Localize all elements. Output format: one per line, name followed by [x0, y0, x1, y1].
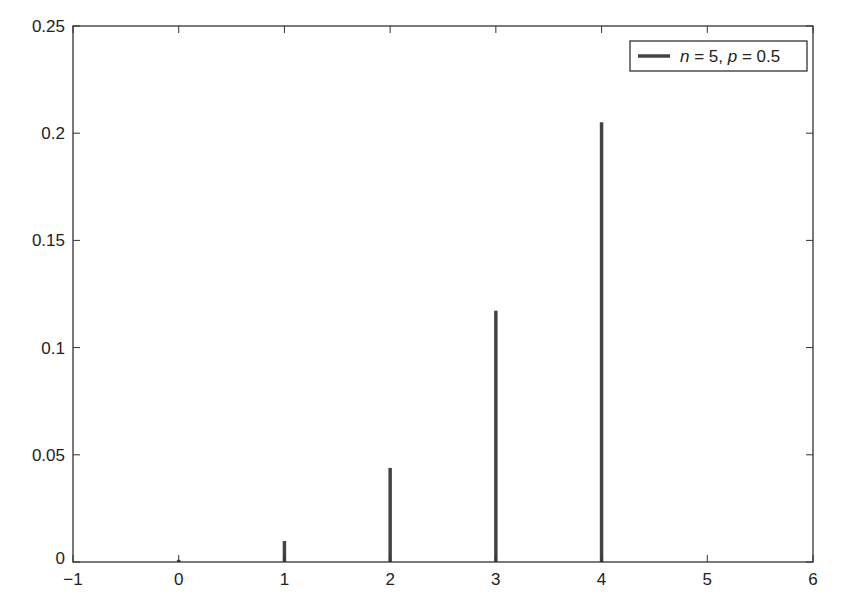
- x-tick-label: 2: [385, 570, 394, 589]
- y-tick-label: 0.2: [41, 124, 65, 143]
- x-tick-label: 0: [174, 570, 183, 589]
- x-tick-label: 1: [280, 570, 289, 589]
- y-tick-label: 0.15: [32, 231, 65, 250]
- plot-area-frame: [73, 26, 813, 562]
- x-tick-label: 5: [703, 570, 712, 589]
- x-tick-label: 3: [491, 570, 500, 589]
- stem-series: [179, 122, 602, 562]
- legend-label: n = 5, p = 0.5: [680, 47, 780, 66]
- y-axis: 00.050.10.150.20.25: [32, 17, 813, 568]
- y-tick-label: 0.05: [32, 446, 65, 465]
- x-tick-label: 6: [808, 570, 817, 589]
- x-tick-label: −1: [63, 570, 82, 589]
- x-tick-label: 4: [597, 570, 606, 589]
- x-axis: −10123456: [63, 26, 817, 589]
- y-tick-label: 0.1: [41, 339, 65, 358]
- y-tick-label: 0: [56, 549, 65, 568]
- stem-chart: −10123456 00.050.10.150.20.25 n = 5, p =…: [0, 0, 844, 612]
- y-tick-label: 0.25: [32, 17, 65, 36]
- legend: n = 5, p = 0.5: [630, 41, 807, 71]
